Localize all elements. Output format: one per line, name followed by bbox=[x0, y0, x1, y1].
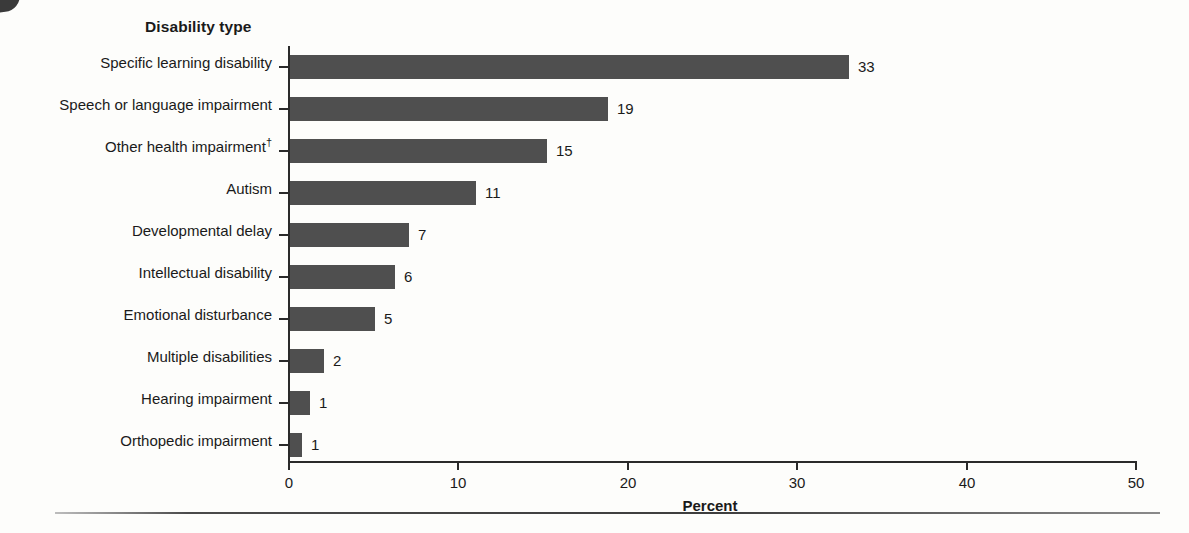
y-axis-label: Multiple disabilities bbox=[147, 348, 272, 365]
bar bbox=[290, 349, 324, 373]
bar bbox=[290, 433, 302, 457]
bar bbox=[290, 181, 476, 205]
y-tick bbox=[279, 192, 288, 194]
y-tick bbox=[279, 360, 288, 362]
y-tick bbox=[279, 66, 288, 68]
x-tick-label: 10 bbox=[450, 474, 467, 491]
y-axis-label: Orthopedic impairment bbox=[120, 432, 272, 449]
bar-value-label: 11 bbox=[485, 181, 501, 205]
bar-value-label: 33 bbox=[858, 55, 875, 79]
bar bbox=[290, 307, 375, 331]
bar bbox=[290, 223, 409, 247]
bar-row: Emotional disturbance 5 bbox=[288, 298, 1135, 340]
y-tick bbox=[279, 276, 288, 278]
x-tick-label: 20 bbox=[620, 474, 637, 491]
bar bbox=[290, 97, 608, 121]
bar-value-label: 5 bbox=[384, 307, 392, 331]
bar bbox=[290, 265, 395, 289]
bar-value-label: 1 bbox=[311, 433, 319, 457]
footnote-dagger-icon: † bbox=[266, 136, 272, 148]
y-tick bbox=[279, 150, 288, 152]
x-tick bbox=[796, 461, 798, 470]
bar-row: Developmental delay 7 bbox=[288, 214, 1135, 256]
y-axis-label: Other health impairment† bbox=[105, 138, 272, 155]
y-tick bbox=[279, 402, 288, 404]
x-tick bbox=[1135, 461, 1137, 470]
x-tick bbox=[627, 461, 629, 470]
y-axis-label: Intellectual disability bbox=[139, 264, 272, 281]
bar-value-label: 19 bbox=[617, 97, 634, 121]
y-axis-label-text: Other health impairment bbox=[105, 138, 266, 155]
bar-row: Specific learning disability 33 bbox=[288, 46, 1135, 88]
bar-value-label: 15 bbox=[556, 139, 573, 163]
y-tick bbox=[279, 318, 288, 320]
bar-row: Intellectual disability 6 bbox=[288, 256, 1135, 298]
y-tick bbox=[279, 444, 288, 446]
bar bbox=[290, 391, 310, 415]
bar-value-label: 6 bbox=[404, 265, 412, 289]
chart-figure: Disability type Specific learning disabi… bbox=[0, 0, 1189, 533]
x-tick-label: 50 bbox=[1128, 474, 1145, 491]
bar-row: Other health impairment† 15 bbox=[288, 130, 1135, 172]
bar-value-label: 2 bbox=[333, 349, 341, 373]
x-tick bbox=[288, 461, 290, 470]
bar-value-label: 1 bbox=[319, 391, 327, 415]
y-axis-label: Developmental delay bbox=[132, 222, 272, 239]
bar-row: Autism 11 bbox=[288, 172, 1135, 214]
scan-artifact-corner bbox=[0, 0, 21, 14]
bar-value-label: 7 bbox=[418, 223, 426, 247]
plot-area: Specific learning disability 33 Speech o… bbox=[288, 46, 1135, 461]
y-tick bbox=[279, 234, 288, 236]
x-tick-label: 0 bbox=[285, 474, 293, 491]
y-axis-label: Specific learning disability bbox=[100, 54, 272, 71]
y-axis-label: Emotional disturbance bbox=[124, 306, 272, 323]
y-axis-label: Speech or language impairment bbox=[59, 96, 272, 113]
chart-title: Disability type bbox=[145, 18, 252, 36]
x-tick-label: 30 bbox=[789, 474, 806, 491]
y-axis-label: Autism bbox=[226, 180, 272, 197]
y-tick bbox=[279, 108, 288, 110]
x-tick bbox=[966, 461, 968, 470]
bar-row: Hearing impairment 1 bbox=[288, 382, 1135, 424]
bar-row: Multiple disabilities 2 bbox=[288, 340, 1135, 382]
x-tick-label: 40 bbox=[959, 474, 976, 491]
bar-row: Orthopedic impairment 1 bbox=[288, 424, 1135, 466]
bar-row: Speech or language impairment 19 bbox=[288, 88, 1135, 130]
x-tick bbox=[457, 461, 459, 470]
y-axis-label: Hearing impairment bbox=[141, 390, 272, 407]
bar bbox=[290, 139, 547, 163]
footer-divider bbox=[55, 512, 1160, 514]
bar bbox=[290, 55, 849, 79]
